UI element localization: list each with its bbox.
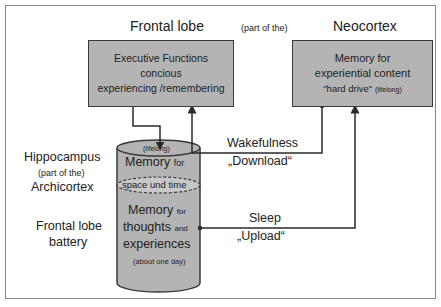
sleep-label: Sleep <box>249 211 281 225</box>
frontal-lobe-battery-label-1: Frontal lobe <box>36 219 102 233</box>
neocortex-box-line2: experiential content <box>315 66 410 81</box>
cylinder-thoughts-and: thoughts and <box>123 220 188 234</box>
cylinder-memory2-text: Memory <box>128 203 173 217</box>
executive-functions-box: Executive Functions concious experiencin… <box>88 40 234 107</box>
hard-drive-text: "hard drive" <box>323 83 372 94</box>
cylinder-for-text: for <box>174 158 185 168</box>
archicortex-label: Archicortex <box>31 180 94 194</box>
part-of-the-label-top: (part of the) <box>241 23 288 33</box>
neocortex-title: Neocortex <box>333 18 397 34</box>
cylinder-lifelong-text: (lifelong) <box>143 145 170 152</box>
space-und-time-text: space und time <box>122 179 186 190</box>
neocortex-box-line3: "hard drive" (lifelong) <box>323 81 402 97</box>
frontal-lobe-title: Frontal lobe <box>130 18 204 34</box>
and-text: and <box>174 224 187 233</box>
frontal-lobe-battery-label-2: battery <box>49 235 87 249</box>
wakefulness-label: Wakefulness <box>227 136 298 150</box>
experiences-text: experiences <box>123 237 190 251</box>
download-label: „Download“ <box>228 154 292 168</box>
frontal-box-line3: experiencing /remembering <box>97 81 224 96</box>
part-of-the-label-left: (part of the) <box>38 168 85 178</box>
frontal-box-line1: Executive Functions <box>114 51 208 66</box>
thoughts-text: thoughts <box>123 220 171 234</box>
neocortex-box-line1: Memory for <box>335 51 391 66</box>
cylinder-memory-space-time: Memory for <box>125 155 184 169</box>
lifelong-small-text: (lifelong) <box>375 86 402 93</box>
hippocampus-label: Hippocampus <box>24 150 100 164</box>
cylinder-memory-thoughts: Memory for <box>128 203 186 217</box>
cylinder-memory-text: Memory <box>125 155 170 169</box>
upload-label: „Upload“ <box>237 229 285 243</box>
frontal-box-line2: concious <box>140 66 181 81</box>
experiential-memory-box: Memory for experiential content "hard dr… <box>292 40 433 107</box>
cylinder-for2-text: for <box>177 207 186 216</box>
about-one-day-text: (about one day) <box>133 257 186 266</box>
